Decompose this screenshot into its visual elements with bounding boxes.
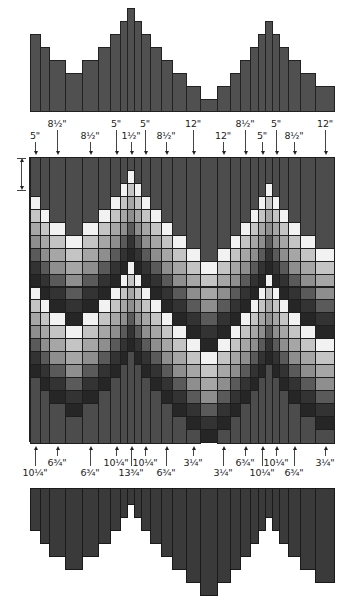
quilt-cell	[172, 338, 187, 352]
measurement-label: 13¾"	[119, 467, 144, 478]
quilt-cell	[49, 312, 66, 326]
arrow-line	[325, 130, 326, 151]
quilt-cell	[217, 351, 231, 365]
filler-strip	[315, 429, 335, 444]
measurement-label: 10¼"	[23, 467, 48, 478]
quilt-cell	[82, 274, 99, 288]
quilt-cell	[186, 261, 201, 275]
filler-strip	[49, 157, 66, 223]
filler-strip	[186, 157, 201, 249]
quilt-cell	[82, 248, 99, 262]
filler-strip	[49, 403, 66, 444]
bottom-profile-bar	[300, 488, 316, 570]
quilt-cell	[300, 377, 316, 391]
top-profile-bar	[217, 86, 231, 112]
quilt-cell	[300, 338, 316, 352]
arrow-line	[131, 142, 132, 151]
arrow-line	[245, 450, 246, 456]
top-profile-bar	[200, 99, 218, 112]
quilt-cell	[217, 248, 231, 262]
quilt-cell	[315, 403, 335, 417]
bottom-profile-bar	[315, 488, 335, 583]
quilt-cell	[300, 403, 316, 417]
quilt-cell	[315, 416, 335, 430]
bottom-profile-bar	[172, 488, 187, 570]
quilt-cell	[49, 248, 66, 262]
arrow-line	[35, 142, 36, 151]
quilt-cell	[186, 416, 201, 430]
quilt-cell	[82, 235, 99, 249]
measurement-label: 3¼"	[315, 457, 334, 468]
quilt-cell	[217, 416, 231, 430]
measurement-label: 5"	[257, 130, 267, 141]
arrow-line	[35, 450, 36, 466]
quilt-cell	[186, 390, 201, 404]
quilt-cell	[172, 377, 187, 391]
bottom-profile-bar	[49, 488, 66, 557]
arrow-line	[90, 450, 91, 466]
measurement-label: 10¼"	[250, 467, 275, 478]
quilt-grid	[29, 157, 334, 442]
filler-strip	[217, 429, 231, 444]
measurement-label: 5"	[140, 118, 150, 129]
quilt-cell	[300, 287, 316, 301]
quilt-cell	[186, 248, 201, 262]
measurement-label: 8½"	[47, 118, 66, 129]
arrow-down-icon	[144, 151, 148, 155]
quilt-cell	[200, 403, 218, 417]
quilt-cell	[82, 299, 99, 313]
quilt-cell	[49, 325, 66, 339]
arrow-down-icon	[222, 151, 226, 155]
measurement-label: 6¾"	[156, 467, 175, 478]
quilt-cell	[200, 312, 218, 326]
bottom-profile-bar	[217, 488, 231, 583]
filler-strip	[186, 429, 201, 444]
quilt-cell	[172, 299, 187, 313]
row-height-line	[21, 160, 22, 188]
quilt-cell	[65, 403, 83, 417]
quilt-cell	[49, 299, 66, 313]
measurement-label: 8½"	[80, 130, 99, 141]
quilt-cell	[315, 248, 335, 262]
quilt-cell	[172, 235, 187, 249]
quilt-cell	[82, 325, 99, 339]
quilt-cell	[300, 248, 316, 262]
arrow-line	[193, 130, 194, 151]
quilt-cell	[186, 377, 201, 391]
quilt-diagram: 5"8½"8½"5"1½"5"8½"12"12"8½"5"5"8½"12"10¼…	[0, 0, 356, 602]
measurement-label: 12"	[317, 118, 333, 129]
bottom-profile-bar	[65, 488, 83, 570]
arrow-down-icon	[115, 151, 119, 155]
top-profile-bar	[315, 86, 335, 112]
quilt-cell	[315, 364, 335, 378]
arrow-line	[294, 142, 295, 151]
filler-strip	[300, 157, 316, 236]
arrow-line	[116, 130, 117, 151]
quilt-cell	[49, 274, 66, 288]
quilt-cell	[65, 287, 83, 301]
quilt-cell	[200, 325, 218, 339]
quilt-cell	[217, 403, 231, 417]
arrow-line	[145, 450, 146, 456]
quilt-cell	[82, 377, 99, 391]
arrow-down-icon	[244, 151, 248, 155]
quilt-cell	[172, 325, 187, 339]
quilt-cell	[65, 274, 83, 288]
quilt-cell	[186, 351, 201, 365]
arrow-line	[145, 130, 146, 151]
quilt-cell	[186, 403, 201, 417]
quilt-cell	[217, 299, 231, 313]
measurement-label: 10¼"	[133, 457, 158, 468]
top-profile-bar	[172, 73, 187, 112]
quilt-cell	[172, 287, 187, 301]
top-profile-bar	[186, 86, 201, 112]
measurement-label: 6¾"	[47, 457, 66, 468]
quilt-cell	[49, 338, 66, 352]
arrow-line	[223, 450, 224, 466]
measurement-label: 5"	[111, 118, 121, 129]
quilt-cell	[49, 287, 66, 301]
tick-top	[17, 158, 26, 159]
quilt-cell	[65, 248, 83, 262]
arrow-line	[276, 130, 277, 151]
arrow-line	[325, 450, 326, 456]
